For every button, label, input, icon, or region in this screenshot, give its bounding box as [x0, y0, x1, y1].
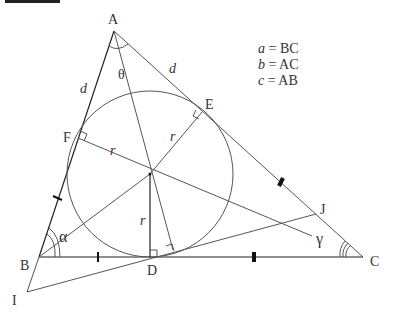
label-i: I	[12, 293, 17, 308]
label-theta: θ	[118, 67, 125, 82]
label-r-f: r	[110, 143, 116, 158]
label-d: D	[147, 263, 157, 278]
legend: a = BC b = AC c = AB	[258, 41, 299, 88]
legend-row-b: b = AC	[258, 57, 299, 72]
incenter-point	[149, 173, 152, 176]
label-c: C	[370, 254, 379, 269]
right-angle-e	[193, 110, 199, 119]
label-d-ac: d	[169, 61, 177, 76]
label-d-ab: d	[80, 81, 88, 96]
tick-ac	[279, 178, 283, 186]
radius-e	[150, 112, 202, 174]
angle-arc-b-inner	[47, 234, 55, 257]
label-f: F	[63, 130, 71, 145]
side-ab	[39, 31, 114, 257]
side-ac	[114, 31, 363, 257]
label-a: A	[108, 12, 119, 27]
legend-row-c: c = AB	[258, 73, 298, 88]
label-r-d: r	[140, 213, 146, 228]
line-i-j	[27, 214, 316, 292]
label-j: J	[320, 202, 326, 217]
right-angle-d	[150, 250, 157, 257]
label-e: E	[205, 97, 214, 112]
label-b: B	[20, 258, 29, 273]
label-alpha: α	[59, 228, 68, 245]
angle-arc-c-3	[346, 245, 351, 257]
legend-row-a: a = BC	[258, 41, 299, 56]
bisector-b	[39, 174, 150, 257]
label-gamma: γ	[315, 230, 323, 248]
label-r-e: r	[170, 129, 176, 144]
triangle-incircle-diagram: A B C D E F I J θ α γ d d r r r a = BC b…	[0, 0, 393, 316]
